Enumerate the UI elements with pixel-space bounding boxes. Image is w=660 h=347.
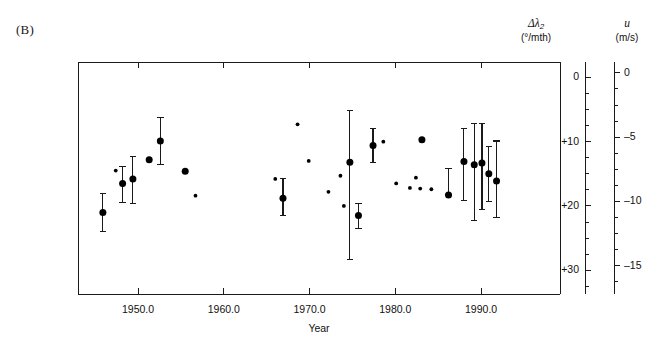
data-point-large [478, 159, 485, 166]
tick-label: +10 [527, 135, 579, 147]
data-point-large [119, 180, 126, 187]
tick-label: –15 [624, 259, 660, 271]
tick-label: 1960.0 [194, 303, 254, 315]
tick-label: 0 [624, 66, 660, 78]
tick-label: +30 [527, 263, 579, 275]
data-point-large [355, 212, 362, 219]
data-markers [99, 122, 500, 219]
figure-panel: (B) Δλ2 (°/mth) u (m/s) 1950.01960.01970… [0, 0, 660, 347]
data-point-large [485, 170, 492, 177]
data-point-small [394, 182, 398, 186]
tick-label: 1980.0 [365, 303, 425, 315]
x-tick-marks [138, 62, 481, 294]
tick-label: +20 [527, 199, 579, 211]
tick-label: 0 [527, 70, 579, 82]
data-point-small [418, 187, 422, 191]
error-bars [100, 110, 500, 260]
x-axis-title: Year [259, 322, 379, 334]
data-point-large [445, 192, 452, 199]
plot-canvas [0, 0, 660, 347]
data-point-large [346, 159, 353, 166]
data-point-large [418, 136, 425, 143]
data-point-large [370, 142, 377, 149]
data-point-large [99, 209, 106, 216]
data-point-small [273, 177, 277, 181]
data-point-small [414, 176, 418, 180]
axes-frame [78, 62, 560, 294]
data-point-small [429, 187, 433, 191]
tick-label: 1970.0 [280, 303, 340, 315]
data-point-large [460, 158, 467, 165]
data-point-small [194, 194, 198, 198]
data-point-small [408, 186, 412, 190]
data-point-large [279, 195, 286, 202]
tick-label: 1990.0 [451, 303, 511, 315]
data-point-small [114, 169, 118, 173]
data-point-small [296, 122, 300, 126]
data-point-large [493, 177, 500, 184]
tick-label: –10 [624, 194, 660, 206]
right-scale-tick-marks [614, 62, 620, 294]
data-point-large [157, 138, 164, 145]
data-point-large [146, 156, 153, 163]
data-point-small [381, 140, 385, 144]
data-point-small [307, 159, 311, 163]
tick-label: 1950.0 [108, 303, 168, 315]
tick-label: –5 [624, 130, 660, 142]
data-point-large [129, 175, 136, 182]
data-point-large [182, 168, 189, 175]
data-point-small [342, 204, 346, 208]
left-scale-tick-marks [585, 62, 591, 294]
data-point-small [327, 190, 331, 194]
data-point-small [339, 174, 343, 178]
data-point-large [471, 161, 478, 168]
